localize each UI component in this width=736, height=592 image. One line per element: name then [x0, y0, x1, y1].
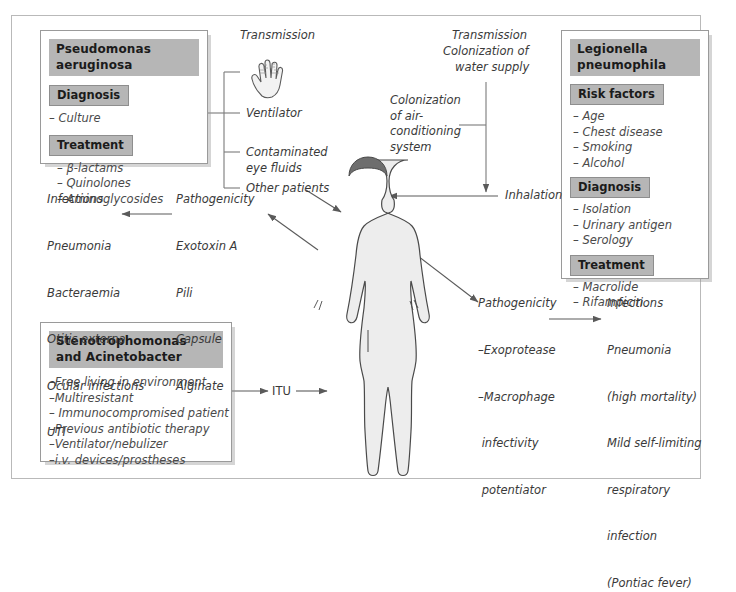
- list-item: Otitis externa: [47, 332, 144, 348]
- legionella-transmission-line1: Transmission: [452, 28, 527, 44]
- list-item: Ocular infections: [47, 379, 144, 395]
- list-item: (Pontiac fever): [607, 576, 702, 592]
- list-item: – β-lactams: [57, 161, 199, 177]
- list-item: – Alcohol: [573, 156, 700, 172]
- list-item: infectivity: [478, 436, 556, 452]
- list-item: –Exoprotease: [478, 343, 556, 359]
- pseudomonas-title: Pseudomonas aeruginosa: [49, 39, 199, 76]
- pseudomonas-diagnosis-heading: Diagnosis: [49, 85, 129, 106]
- pseudomonas-infections-list: Pneumonia Bacteraemia Otitis externa Ocu…: [47, 208, 144, 472]
- legionella-box[interactable]: Legionella pneumophila Risk factors – Ag…: [561, 30, 709, 279]
- legionella-infections-heading: Infections: [607, 296, 663, 312]
- list-item: –Macrophage: [478, 390, 556, 406]
- list-item: UTI: [47, 425, 144, 441]
- legionella-pathogenicity-list: –Exoprotease –Macrophage infectivity pot…: [478, 312, 556, 529]
- pseudomonas-box[interactable]: Pseudomonas aeruginosa Diagnosis – Cultu…: [40, 30, 208, 164]
- transmission-item-other-patients: Other patients: [246, 181, 329, 197]
- legionella-aircon-label: Colonization of air- conditioning system: [390, 93, 461, 155]
- list-item: – Urinary antigen: [573, 218, 700, 234]
- list-item: infection: [607, 529, 702, 545]
- itu-label: ITU: [272, 384, 291, 400]
- list-item: Alginate: [176, 379, 237, 395]
- legionella-diagnosis-heading: Diagnosis: [570, 177, 650, 198]
- list-item: Pneumonia: [607, 343, 702, 359]
- list-item: Mild self-limiting: [607, 436, 702, 452]
- list-item: – Smoking: [573, 140, 700, 156]
- hand-icon: [246, 56, 290, 100]
- list-item: – Chest disease: [573, 125, 700, 141]
- legionella-transmission-line3: water supply: [455, 60, 529, 76]
- pseudomonas-pathogenicity-heading: Pathogenicity: [176, 192, 255, 208]
- pseudomonas-treatment-heading: Treatment: [49, 135, 133, 156]
- legionella-risk-factors-heading: Risk factors: [570, 84, 664, 105]
- list-item: – Macrolide: [573, 280, 700, 296]
- list-item: Bacteraemia: [47, 286, 144, 302]
- list-item: – Culture: [49, 111, 199, 127]
- list-item: (high mortality): [607, 390, 702, 406]
- legionella-transmission-line2: Colonization of: [443, 44, 529, 60]
- list-item: potentiator: [478, 483, 556, 499]
- transmission-item-eye-fluids: Contaminated eye fluids: [246, 145, 328, 176]
- list-item: respiratory: [607, 483, 702, 499]
- legionella-pathogenicity-heading: Pathogenicity: [478, 296, 557, 312]
- legionella-treatment-heading: Treatment: [570, 255, 654, 276]
- list-item: Pneumonia: [47, 239, 144, 255]
- list-item: Capsule: [176, 332, 237, 348]
- pseudomonas-pathogenicity-list: Exotoxin A Pili Capsule Alginate: [176, 208, 237, 425]
- list-item: Exotoxin A: [176, 239, 237, 255]
- legionella-inhalation-label: Inhalation: [505, 188, 562, 204]
- pseudomonas-infections-heading: Infections: [47, 192, 103, 208]
- transmission-item-ventilator: Ventilator: [246, 106, 302, 122]
- list-item: – Age: [573, 109, 700, 125]
- list-item: Pili: [176, 286, 237, 302]
- legionella-title: Legionella pneumophila: [570, 39, 700, 76]
- list-item: – Quinolones: [57, 176, 199, 192]
- list-item: – Isolation: [573, 202, 700, 218]
- pseudomonas-transmission-label: Transmission: [240, 28, 315, 44]
- list-item: – Serology: [573, 233, 700, 249]
- legionella-infections-list: Pneumonia (high mortality) Mild self-lim…: [607, 312, 702, 592]
